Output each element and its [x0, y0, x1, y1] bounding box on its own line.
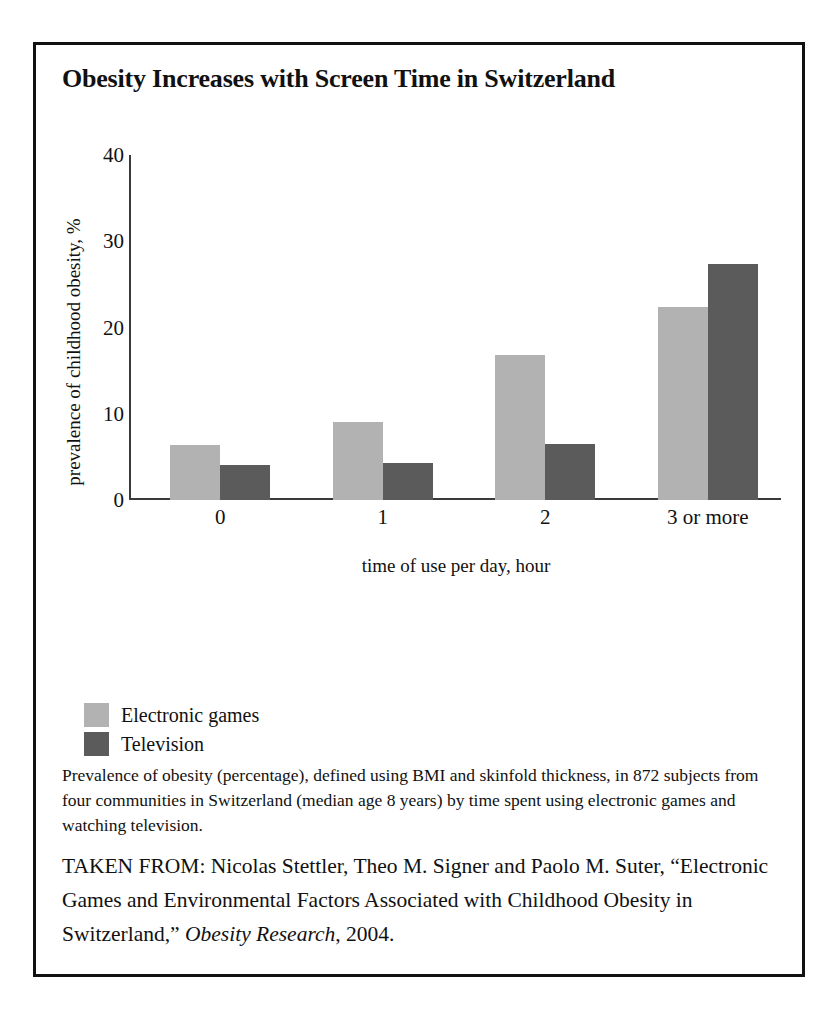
bar	[495, 355, 545, 500]
y-axis-tick-labels: 010203040	[76, 105, 124, 645]
source-journal: Obesity Research	[185, 922, 335, 946]
legend-item: Electronic games	[84, 700, 259, 729]
bar	[545, 444, 595, 500]
chart-title: Obesity Increases with Screen Time in Sw…	[62, 65, 778, 94]
y-tick-label: 40	[82, 145, 124, 166]
y-tick-label: 0	[82, 490, 124, 511]
bars-area	[131, 155, 781, 500]
bar-group	[333, 155, 433, 500]
figure-frame: Obesity Increases with Screen Time in Sw…	[33, 42, 805, 977]
y-tick-label: 30	[82, 231, 124, 252]
bar	[708, 264, 758, 500]
figure-source: TAKEN FROM: Nicolas Stettler, Theo M. Si…	[62, 850, 782, 952]
chart-legend: Electronic gamesTelevision	[84, 700, 259, 758]
bar	[383, 463, 433, 500]
x-tick-label: 1	[378, 505, 389, 530]
x-tick-label: 3 or more	[667, 505, 749, 530]
x-tick-label: 0	[215, 505, 226, 530]
y-tick-label: 20	[82, 317, 124, 338]
legend-item: Television	[84, 729, 259, 758]
bar	[658, 307, 708, 500]
bar	[170, 445, 220, 500]
figure-caption: Prevalence of obesity (percentage), defi…	[62, 763, 778, 838]
bar-group	[495, 155, 595, 500]
bar	[333, 422, 383, 500]
x-axis-tick-labels: 0123 or more	[131, 505, 781, 545]
legend-swatch	[84, 703, 109, 727]
bar-group	[658, 155, 758, 500]
x-tick-label: 2	[540, 505, 551, 530]
y-tick-label: 10	[82, 403, 124, 424]
legend-swatch	[84, 732, 109, 756]
legend-label: Electronic games	[121, 705, 259, 725]
x-axis-title: time of use per day, hour	[131, 555, 781, 577]
bar-group	[170, 155, 270, 500]
source-suffix: , 2004.	[335, 922, 394, 946]
plot-region: prevalence of childhood obesity, % 01020…	[36, 105, 808, 645]
bar	[220, 465, 270, 500]
source-prefix: TAKEN FROM: Nicolas Stettler, Theo M. Si…	[62, 854, 768, 946]
legend-label: Television	[121, 734, 204, 754]
